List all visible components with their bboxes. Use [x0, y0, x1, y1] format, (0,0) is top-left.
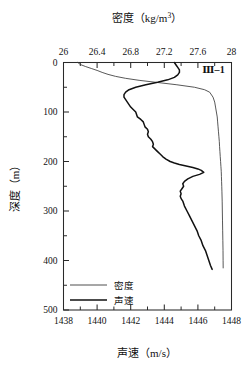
left-tick-label: 0: [53, 58, 58, 68]
left-tick-label: 200: [43, 157, 58, 167]
left-axis-tick-labels: 0100200300400500: [43, 58, 58, 316]
top-axis-tick-labels: 2626.426.827.227.628: [59, 47, 237, 57]
top-axis-title: 密度（kg/m3）: [112, 11, 182, 24]
chart-legend: 密度声速: [70, 280, 134, 306]
top-tick-label: 28: [227, 47, 237, 57]
left-axis-title: 深度（m）: [8, 160, 21, 213]
chart-root: 密度（kg/m3） 2626.426.827.227.628 143814401…: [0, 0, 252, 370]
bottom-tick-label: 1438: [54, 316, 73, 326]
left-axis-ticks: [64, 63, 70, 311]
bottom-tick-label: 1440: [88, 316, 107, 326]
top-tick-label: 27.6: [190, 47, 207, 57]
left-tick-label: 500: [43, 305, 58, 315]
left-tick-label: 100: [43, 107, 58, 117]
bottom-axis-tick-labels: 143814401442144414461448: [54, 316, 241, 326]
left-tick-label: 300: [43, 206, 58, 216]
top-tick-label: 26.8: [122, 47, 139, 57]
bottom-tick-label: 1446: [188, 316, 207, 326]
panel-label: Ⅲ–1: [202, 64, 225, 75]
density-curve: [78, 63, 223, 268]
legend-label-2: 声速: [114, 295, 134, 306]
bottom-tick-label: 1442: [121, 316, 140, 326]
top-tick-label: 27.2: [156, 47, 173, 57]
left-tick-label: 400: [43, 256, 58, 266]
top-tick-label: 26.4: [89, 47, 106, 57]
plot-frame: [64, 63, 232, 311]
legend-label-1: 密度: [114, 280, 134, 291]
top-tick-label: 26: [59, 47, 69, 57]
bottom-axis-ticks: [64, 305, 232, 311]
bottom-tick-label: 1444: [155, 316, 174, 326]
bottom-axis-title: 声速（m/s）: [117, 346, 177, 359]
sound-speed-curve: [124, 63, 212, 270]
bottom-tick-label: 1448: [222, 316, 241, 326]
profile-chart: 密度（kg/m3） 2626.426.827.227.628 143814401…: [0, 0, 252, 370]
